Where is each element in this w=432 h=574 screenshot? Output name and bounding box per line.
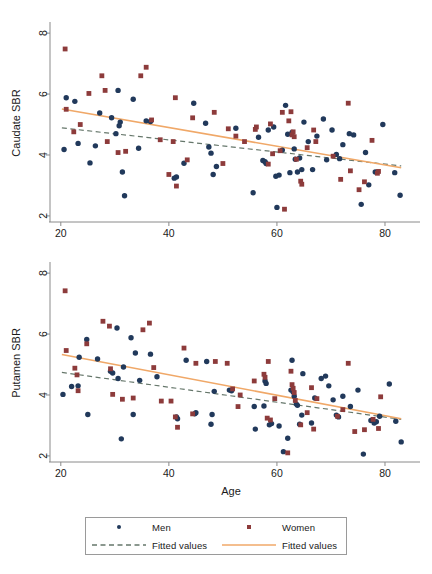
data-point-men (276, 423, 281, 428)
data-point-women (292, 390, 297, 395)
data-point-women (193, 361, 198, 366)
data-point-women (212, 110, 217, 115)
caudate-sbr-scatter-plot: 246820406080Caudate SBR (0, 0, 432, 250)
y-axis-tick-label: 6 (37, 331, 49, 337)
y-axis-tick-label: 2 (37, 213, 49, 219)
data-point-women (346, 101, 351, 106)
data-point-men (314, 133, 319, 138)
data-point-men (154, 374, 159, 379)
data-point-women (182, 346, 187, 351)
data-point-women (268, 122, 273, 127)
women-marker-icon (222, 521, 276, 533)
data-point-men (326, 383, 331, 388)
data-point-men (69, 384, 74, 389)
data-point-men (60, 392, 65, 397)
data-point-women (238, 393, 243, 398)
data-point-women (346, 361, 351, 366)
data-point-men (266, 127, 271, 132)
data-point-women (103, 88, 108, 93)
data-point-women (285, 450, 290, 455)
legend-item-label: Fitted values (152, 540, 207, 551)
data-point-women (254, 125, 259, 130)
data-point-men (148, 351, 153, 356)
data-point-men (76, 355, 81, 360)
data-point-women (63, 288, 68, 293)
data-point-women (252, 379, 257, 384)
data-point-women (166, 172, 171, 177)
data-point-men (206, 144, 211, 149)
women-fit-line-icon (222, 539, 276, 551)
data-point-women (266, 162, 271, 167)
data-point-men (203, 121, 208, 126)
data-point-men (253, 426, 258, 431)
data-point-men (204, 359, 209, 364)
data-point-women (116, 150, 121, 155)
legend-item-women-fitted-values[interactable]: Fitted values (216, 539, 346, 551)
data-point-women (362, 427, 367, 432)
men-data-points (61, 88, 402, 210)
data-point-men (337, 156, 342, 161)
data-point-women (272, 396, 277, 401)
data-point-women (64, 107, 69, 112)
data-point-women (313, 139, 318, 144)
data-point-women (378, 394, 383, 399)
data-point-women (376, 169, 381, 174)
data-point-women (107, 324, 112, 329)
data-point-women (185, 157, 190, 162)
data-point-men (393, 418, 398, 423)
data-point-women (75, 372, 80, 377)
data-point-men (75, 141, 80, 146)
data-point-women (84, 341, 89, 346)
data-point-women (280, 110, 285, 115)
data-point-women (357, 187, 362, 192)
data-point-women (291, 129, 296, 134)
data-point-women (123, 149, 128, 154)
legend-item-label: Fitted values (282, 540, 337, 551)
legend-item-men-fitted-values[interactable]: Fitted values (86, 539, 216, 551)
data-point-men (128, 335, 133, 340)
x-axis-tick-label: 40 (163, 467, 175, 479)
data-point-women (220, 161, 225, 166)
data-point-women (352, 429, 357, 434)
data-point-men (212, 389, 217, 394)
data-point-women (299, 182, 304, 187)
y-axis-tick-label: 6 (37, 91, 49, 97)
y-axis-tick-label: 4 (37, 392, 49, 398)
data-point-men (366, 182, 371, 187)
data-point-women (226, 126, 231, 131)
y-axis-tick-label: 4 (37, 152, 49, 158)
chart-panel-putamen: 246820406080Putamen SBRAge (0, 250, 432, 505)
data-point-women (151, 365, 156, 370)
data-point-women (311, 427, 316, 432)
data-point-women (292, 134, 297, 139)
data-point-men (351, 132, 356, 137)
data-point-men (321, 116, 326, 121)
putamen-sbr-scatter-plot: 246820406080Putamen SBRAge (0, 250, 432, 505)
data-point-men (208, 150, 213, 155)
data-point-women (225, 361, 230, 366)
data-point-men (114, 325, 119, 330)
data-point-men (263, 381, 268, 386)
data-point-women (331, 154, 336, 159)
x-axis-tick-label: 60 (271, 227, 283, 239)
data-point-men (306, 139, 311, 144)
data-point-men (340, 142, 345, 147)
data-point-men (252, 404, 257, 409)
data-point-women (294, 157, 299, 162)
data-point-men (359, 202, 364, 207)
data-point-women (131, 396, 136, 401)
data-point-women (87, 91, 92, 96)
x-axis-tick-label: 80 (379, 467, 391, 479)
data-point-men (75, 383, 80, 388)
data-point-men (183, 358, 188, 363)
data-point-women (138, 73, 143, 78)
data-point-men (295, 403, 300, 408)
legend-item-women[interactable]: Women (216, 521, 346, 533)
data-point-men (287, 170, 292, 175)
legend-item-men[interactable]: Men (86, 521, 216, 533)
data-point-women (289, 369, 294, 374)
data-point-men (274, 205, 279, 210)
data-point-women (236, 404, 241, 409)
x-axis-tick-label: 60 (271, 467, 283, 479)
y-axis-title: Putamen SBR (10, 328, 22, 398)
